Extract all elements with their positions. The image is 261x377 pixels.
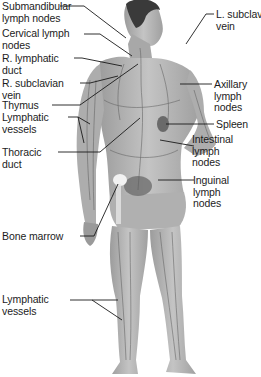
label-thymus: Thymus <box>2 100 39 112</box>
label-intestinal-lymph-nodes: Intestinal lymph nodes <box>192 134 233 169</box>
label-lymphatic-vessels-arm: Lymphatic vessels <box>2 112 49 135</box>
line-l-subclavian <box>186 14 214 44</box>
label-inguinal-lymph-nodes: Inguinal lymph nodes <box>193 175 229 210</box>
label-axillary-lymph-nodes: Axillary lymph nodes <box>214 79 247 114</box>
label-submandibular-lymph-nodes: Submandibular lymph nodes <box>2 1 71 24</box>
line-lymphatic-leg <box>70 300 122 320</box>
label-spleen: Spleen <box>216 119 248 131</box>
femur-highlight <box>116 184 121 224</box>
right-hand <box>83 222 98 246</box>
label-l-subclavian-vein: L. subclavian vein <box>216 9 261 32</box>
label-lymphatic-vessels-leg: Lymphatic vessels <box>2 294 49 317</box>
right-arm <box>77 64 104 226</box>
label-r-lymphatic-duct: R. lymphatic duct <box>2 53 59 76</box>
label-bone-marrow: Bone marrow <box>2 231 63 243</box>
label-r-subclavian-vein: R. subclavian vein <box>2 78 64 101</box>
label-thoracic-duct: Thoracic duct <box>2 147 41 170</box>
label-cervical-lymph-nodes: Cervical lymph nodes <box>2 28 69 51</box>
